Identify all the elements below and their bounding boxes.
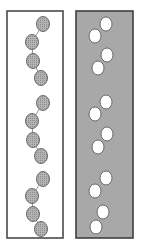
white-node xyxy=(100,95,112,109)
right-panel xyxy=(76,11,133,238)
gray-node xyxy=(26,35,39,50)
white-node xyxy=(92,140,104,154)
gray-node xyxy=(26,189,39,204)
gray-node xyxy=(27,207,40,222)
gray-node xyxy=(37,172,50,187)
white-node xyxy=(90,220,102,234)
white-node xyxy=(101,48,113,62)
gray-node xyxy=(35,71,48,86)
two-panel-diagram xyxy=(0,0,143,252)
left-panel xyxy=(7,11,63,238)
white-node xyxy=(89,184,101,198)
gray-node xyxy=(27,133,40,148)
gray-node xyxy=(35,149,48,164)
white-node xyxy=(100,17,112,31)
white-node xyxy=(100,171,112,185)
white-node xyxy=(89,107,101,121)
white-node xyxy=(101,127,113,141)
white-node xyxy=(97,205,109,219)
gray-node xyxy=(26,114,39,129)
white-node xyxy=(92,61,104,75)
gray-node xyxy=(35,222,48,237)
right-panel-frame xyxy=(76,11,133,238)
gray-node xyxy=(37,96,50,111)
white-node xyxy=(89,29,101,43)
figure-container xyxy=(0,0,143,252)
gray-node xyxy=(27,54,40,69)
gray-node xyxy=(37,17,50,32)
